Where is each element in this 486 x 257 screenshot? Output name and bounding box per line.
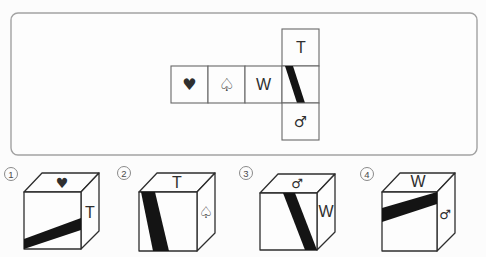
- cube-drawing-2: T ♤: [139, 173, 215, 251]
- answer-option-1[interactable]: 1 ♥ T: [5, 168, 100, 250]
- spade-icon: ♤: [199, 203, 213, 222]
- heart-icon: ♥: [182, 75, 196, 94]
- mars-icon: ♂: [294, 113, 307, 131]
- answer-option-2[interactable]: 2 T ♤: [118, 167, 216, 252]
- top-letter-t: T: [172, 174, 182, 191]
- cube-drawing-1: ♥ T: [24, 173, 99, 249]
- answer-option-3[interactable]: 3 ♂ W: [240, 167, 336, 251]
- spade-icon: ♤: [218, 74, 234, 95]
- net-letter-w: W: [256, 76, 272, 93]
- option-number: 4: [364, 169, 369, 180]
- heart-icon: ♥: [56, 175, 69, 191]
- cube-net-puzzle-worksheet: ♥ ♤ W T ♂ 1 ♥ T: [0, 0, 486, 257]
- net-letter-t: T: [296, 39, 306, 56]
- cube-drawing-3: ♂ W: [260, 174, 335, 250]
- puzzle-canvas: ♥ ♤ W T ♂ 1 ♥ T: [0, 0, 486, 257]
- net-face-w: W: [245, 66, 282, 103]
- side-letter-w: W: [318, 203, 334, 220]
- net-face-mars: ♂: [282, 103, 319, 140]
- top-letter-w: W: [410, 173, 426, 190]
- net-face-spade: ♤: [208, 66, 245, 103]
- option-number: 3: [243, 168, 248, 179]
- side-letter-t: T: [85, 204, 95, 221]
- answer-option-4[interactable]: 4 W ♂: [361, 168, 456, 252]
- cube-drawing-4: W ♂: [382, 173, 455, 251]
- mars-icon: ♂: [291, 176, 303, 191]
- net-face-stripe: [282, 66, 319, 103]
- net-face-heart: ♥: [171, 66, 208, 103]
- option-number: 2: [121, 168, 126, 179]
- net-face-t: T: [282, 29, 319, 66]
- mars-icon: ♂: [439, 207, 451, 222]
- option-number: 1: [8, 169, 13, 180]
